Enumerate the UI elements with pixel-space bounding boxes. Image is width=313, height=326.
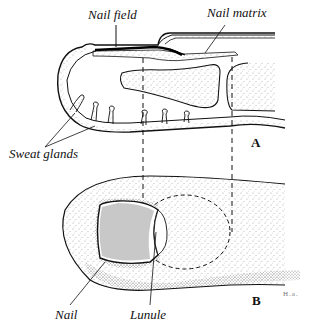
label-nail-field: Nail field (88, 7, 137, 23)
leader-nail-matrix (205, 25, 225, 53)
panel-a-section (45, 25, 285, 147)
label-lunule: Lunule (130, 307, 166, 323)
nail-anatomy-diagram (0, 0, 313, 326)
label-sweat-glands: Sweat glands (9, 146, 78, 162)
panel-b-dorsal (63, 176, 300, 305)
panel-label-a: A (251, 135, 260, 151)
panel-label-b: B (252, 293, 261, 309)
artist-signature: H.a. (283, 290, 299, 298)
leader-sweat-gland-2 (45, 126, 95, 147)
label-nail: Nail (55, 307, 77, 323)
label-nail-matrix: Nail matrix (207, 5, 267, 21)
leader-sweat-gland-1 (45, 113, 75, 147)
